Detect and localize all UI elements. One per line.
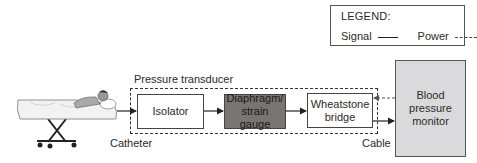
patient-on-stretcher-icon [17, 90, 116, 148]
